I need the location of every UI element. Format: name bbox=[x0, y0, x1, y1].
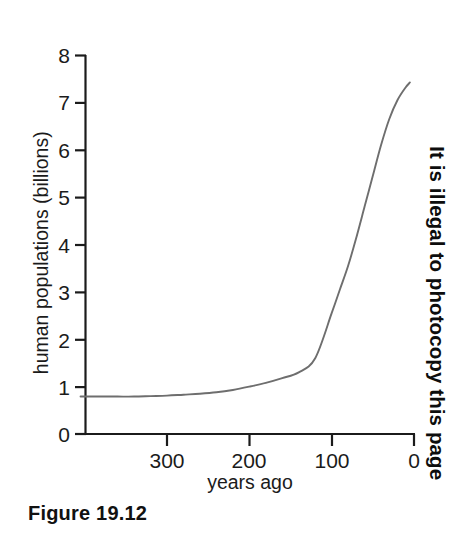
y-axis-ticks bbox=[75, 56, 86, 435]
y-tick-label-0: 0 bbox=[44, 424, 70, 445]
x-axis-title: years ago bbox=[85, 473, 415, 493]
copyright-side-notice: It is illegal to photocopy this page bbox=[427, 146, 448, 546]
x-tick-label-200: 200 bbox=[219, 450, 279, 471]
y-axis-title: human populations (billions) bbox=[32, 103, 52, 403]
y-tick-label-8: 8 bbox=[44, 45, 70, 66]
x-axis-ticks bbox=[167, 434, 414, 446]
x-tick-label-300: 300 bbox=[137, 450, 197, 471]
figure-19-12: 8 7 6 5 4 3 2 1 0 300 200 100 0 human po… bbox=[0, 0, 467, 550]
x-tick-label-100: 100 bbox=[302, 450, 362, 471]
figure-caption: Figure 19.12 bbox=[28, 503, 147, 523]
population-curve-line bbox=[81, 82, 410, 396]
